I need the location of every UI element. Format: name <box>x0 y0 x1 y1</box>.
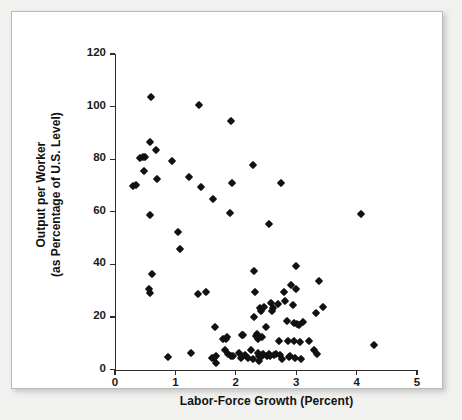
x-tick-label: 3 <box>283 376 309 388</box>
scatter-point <box>305 337 313 345</box>
x-tick <box>235 370 236 375</box>
scatter-point <box>292 285 300 293</box>
scatter-point <box>195 101 203 109</box>
scatter-point <box>296 338 304 346</box>
scatter-point <box>201 288 209 296</box>
scatter-point <box>319 302 327 310</box>
x-tick-label: 0 <box>102 376 128 388</box>
scatter-point <box>262 323 270 331</box>
scatter-point <box>311 308 319 316</box>
scatter-point <box>297 355 305 363</box>
scatter-point <box>168 157 176 165</box>
x-tick <box>175 370 176 375</box>
scatter-point <box>282 317 290 325</box>
scatter-point <box>174 228 182 236</box>
scatter-point <box>357 210 365 218</box>
scatter-point <box>210 322 218 330</box>
scatter-point <box>227 179 235 187</box>
scatter-plot-area <box>115 54 417 370</box>
scatter-point <box>209 195 217 203</box>
scatter-point <box>251 288 259 296</box>
y-tick-label: 60 <box>72 204 106 216</box>
x-axis-title: Labor-Force Growth (Percent) <box>115 394 418 408</box>
scatter-point <box>288 301 296 309</box>
y-tick-label: 20 <box>72 309 106 321</box>
x-tick <box>296 370 297 375</box>
scatter-point <box>146 211 154 219</box>
scatter-point <box>265 220 273 228</box>
scatter-point <box>146 289 154 297</box>
scatter-point <box>299 317 307 325</box>
scatter-point <box>152 145 160 153</box>
scatter-point <box>153 174 161 182</box>
y-tick-label: 0 <box>72 362 106 374</box>
scatter-point <box>184 173 192 181</box>
scatter-point <box>369 341 377 349</box>
scatter-point <box>197 183 205 191</box>
scatter-point <box>313 350 321 358</box>
y-tick-label: 40 <box>72 256 106 268</box>
y-axis-title-line1: Output per Worker <box>34 142 48 248</box>
scatter-point <box>226 208 234 216</box>
scatter-point <box>140 167 148 175</box>
scatter-point <box>250 267 258 275</box>
x-tick <box>114 370 115 375</box>
scatter-point <box>277 179 285 187</box>
scatter-point <box>280 288 288 296</box>
scatter-point <box>187 348 195 356</box>
figure-frame: 020406080100120 012345 Labor-Force Growt… <box>11 11 443 389</box>
y-tick-label: 80 <box>72 151 106 163</box>
scatter-point <box>250 313 258 321</box>
scatter-point <box>176 244 184 252</box>
y-tick-label: 120 <box>72 46 106 58</box>
x-tick <box>356 370 357 375</box>
scatter-point <box>146 137 154 145</box>
y-axis-title-line2: (as Percentage of U.S. Level) <box>49 100 64 290</box>
x-tick <box>416 370 417 375</box>
scatter-point <box>275 336 283 344</box>
scatter-point <box>227 117 235 125</box>
x-tick-label: 5 <box>404 376 430 388</box>
scatter-point <box>147 92 155 100</box>
scatter-point <box>292 262 300 270</box>
y-tick-label: 100 <box>72 99 106 111</box>
figure-root: 020406080100120 012345 Labor-Force Growt… <box>0 0 462 420</box>
scatter-point <box>148 270 156 278</box>
scatter-point <box>315 277 323 285</box>
x-tick-label: 1 <box>162 376 188 388</box>
scatter-point <box>164 353 172 361</box>
y-axis-title: Output per Worker (as Percentage of U.S.… <box>34 100 63 290</box>
x-tick-label: 4 <box>344 376 370 388</box>
x-tick-label: 2 <box>223 376 249 388</box>
scatter-point <box>248 160 256 168</box>
